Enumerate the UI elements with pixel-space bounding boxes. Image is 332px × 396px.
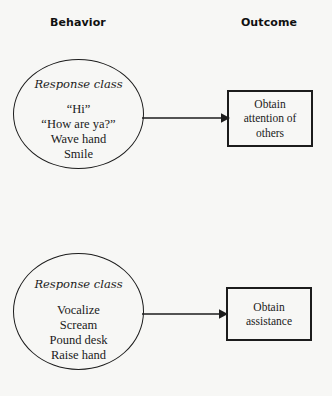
response-class-items-1: “Hi” “How are ya?” Wave hand Smile xyxy=(41,102,115,162)
column-header-behavior: Behavior xyxy=(18,16,138,29)
response-class-label-1: Response class xyxy=(34,77,122,91)
column-header-outcome: Outcome xyxy=(209,16,329,29)
response-class-label-2: Response class xyxy=(34,277,122,291)
response-class-circle-1: Response class “Hi” “How are ya?” Wave h… xyxy=(13,59,144,169)
outcome-box-2: Obtain assistance xyxy=(226,287,312,341)
response-class-items-2: Vocalize Scream Pound desk Raise hand xyxy=(50,303,108,363)
connector-arrow-2 xyxy=(142,304,228,324)
outcome-box-1: Obtain attention of others xyxy=(227,90,313,147)
connector-arrow-1 xyxy=(142,108,230,128)
behavior-outcome-diagram: Behavior Outcome Response class “Hi” “Ho… xyxy=(0,0,332,396)
response-class-circle-2: Response class Vocalize Scream Pound des… xyxy=(13,253,144,370)
